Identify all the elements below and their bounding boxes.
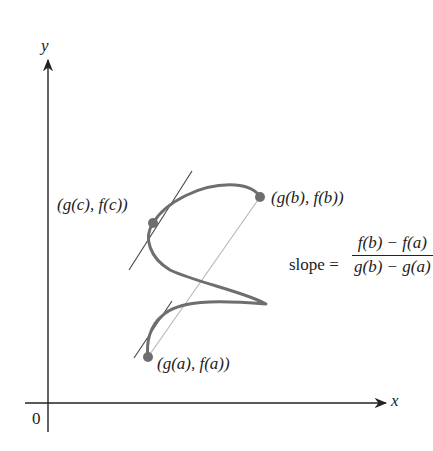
slope-fraction: f(b) − f(a) g(b) − g(a) bbox=[352, 234, 433, 277]
parametric-curve bbox=[148, 185, 266, 357]
tangent-line-c bbox=[129, 171, 192, 270]
slope-denominator: g(b) − g(a) bbox=[352, 256, 433, 277]
point-b-label: (g(b), f(b)) bbox=[271, 189, 344, 206]
origin-label: 0 bbox=[32, 410, 41, 427]
point-a bbox=[143, 352, 153, 362]
point-b bbox=[255, 192, 265, 202]
y-axis-label: y bbox=[41, 37, 49, 54]
point-c-label: (g(c), f(c)) bbox=[57, 196, 128, 213]
point-a-label: (g(a), f(a)) bbox=[157, 355, 230, 372]
point-c bbox=[148, 218, 158, 228]
x-axis-label: x bbox=[391, 392, 399, 409]
parametric-curve-diagram bbox=[0, 0, 433, 451]
slope-prefix: slope = bbox=[289, 256, 339, 273]
slope-numerator: f(b) − f(a) bbox=[356, 234, 429, 255]
secant-line bbox=[148, 197, 260, 357]
